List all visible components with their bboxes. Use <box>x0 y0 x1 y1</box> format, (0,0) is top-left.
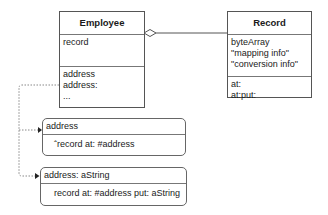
record-class-title: Record <box>228 12 311 34</box>
aggregation-diamond-icon <box>144 30 156 37</box>
method-body: record at: #address put: aString <box>41 184 186 203</box>
arrow-head-icon <box>35 173 40 179</box>
method-note-address[interactable]: address ˆrecord at: #address <box>42 118 186 156</box>
method-note-address-set[interactable]: address: aString record at: #address put… <box>40 167 187 206</box>
method-signature: address: aString <box>41 168 186 184</box>
record-class-box[interactable]: Record byteArray "mapping info" "convers… <box>227 11 312 98</box>
employee-methods: address address: ... <box>60 66 144 107</box>
method: ... <box>63 91 141 102</box>
method: at:put: <box>231 90 308 101</box>
attribute: record <box>63 37 141 48</box>
record-attributes: byteArray "mapping info" "conversion inf… <box>228 34 311 76</box>
method: at: <box>231 79 308 90</box>
attribute: byteArray <box>231 37 308 48</box>
method: address <box>63 69 141 80</box>
method-body: ˆrecord at: #address <box>43 135 185 154</box>
method-signature: address <box>43 119 185 135</box>
employee-attributes: record <box>60 34 144 66</box>
attribute: "conversion info" <box>231 59 308 70</box>
attribute: "mapping info" <box>231 48 308 59</box>
employee-class-box[interactable]: Employee record address address: ... <box>59 11 145 108</box>
method: address: <box>63 80 141 91</box>
employee-class-title: Employee <box>60 12 144 34</box>
record-methods: at: at:put: <box>228 76 311 97</box>
